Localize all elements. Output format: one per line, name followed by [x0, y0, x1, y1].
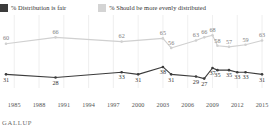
svg-text:31: 31	[135, 76, 141, 83]
legend-item-distribution-is-fair[interactable]: % Distribution is fair	[0, 4, 66, 12]
data-labels-distribution-is-fair: 3128333138312927373535333331	[3, 68, 265, 87]
legend-label-more-evenly-distributed: % Should be more evenly distributed	[109, 4, 206, 12]
x-axis-tick: 1991	[57, 100, 70, 110]
svg-text:31: 31	[259, 76, 265, 83]
chart-svg: 606662655663666858575963 312833313831292…	[0, 15, 273, 100]
svg-text:66: 66	[201, 28, 207, 35]
x-axis-tick: 1985	[8, 100, 21, 110]
x-axis-tick: 1994	[82, 100, 95, 110]
svg-text:56: 56	[168, 39, 174, 46]
svg-text:63: 63	[259, 31, 265, 38]
svg-text:59: 59	[242, 36, 248, 43]
x-axis: 1985198819911994199720002003200620092012…	[0, 100, 273, 114]
source-attribution: GALLUP	[2, 119, 32, 126]
series-points-distribution-is-fair	[5, 66, 264, 80]
legend-swatch-dark-icon	[0, 4, 8, 12]
svg-text:66: 66	[52, 28, 58, 35]
svg-text:60: 60	[3, 34, 9, 41]
x-axis-tick: 1988	[33, 100, 46, 110]
legend-item-more-evenly-distributed[interactable]: % Should be more evenly distributed	[98, 4, 206, 12]
svg-text:38: 38	[160, 68, 166, 75]
svg-text:68: 68	[209, 26, 215, 33]
svg-text:65: 65	[160, 29, 166, 36]
svg-text:33: 33	[234, 73, 240, 80]
x-axis-tick: 2003	[157, 100, 170, 110]
x-axis-tick: 2015	[256, 100, 269, 110]
x-axis-tick: 2009	[206, 100, 219, 110]
svg-text:27: 27	[201, 80, 207, 87]
x-axis-tick: 1997	[107, 100, 120, 110]
svg-text:35: 35	[226, 71, 232, 78]
svg-text:57: 57	[226, 38, 232, 45]
svg-text:29: 29	[193, 78, 199, 85]
svg-text:28: 28	[52, 79, 58, 86]
gallup-line-chart: % Distribution is fair % Should be more …	[0, 0, 273, 135]
plot-area: 606662655663666858575963 312833313831292…	[0, 15, 273, 100]
svg-text:33: 33	[119, 73, 125, 80]
data-labels-more-evenly-distributed: 606662655663666858575963	[3, 26, 265, 46]
svg-text:33: 33	[242, 73, 248, 80]
x-axis-tick: 2012	[231, 100, 244, 110]
x-axis-tick: 2000	[132, 100, 145, 110]
chart-legend: % Distribution is fair % Should be more …	[0, 1, 273, 15]
series-line-more-evenly-distributed	[6, 35, 262, 48]
x-axis-tick: 2006	[181, 100, 194, 110]
svg-text:62: 62	[119, 32, 125, 39]
svg-text:35: 35	[214, 71, 220, 78]
series-line-distribution-is-fair	[6, 67, 262, 79]
svg-text:31: 31	[168, 76, 174, 83]
legend-label-distribution-is-fair: % Distribution is fair	[11, 4, 66, 12]
svg-text:63: 63	[193, 31, 199, 38]
svg-text:31: 31	[3, 76, 9, 83]
legend-swatch-light-icon	[98, 4, 106, 12]
svg-text:58: 58	[214, 37, 220, 44]
